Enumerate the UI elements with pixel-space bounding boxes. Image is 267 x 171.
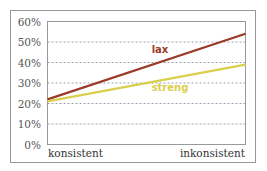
y-tick-label: 0% [24,139,41,151]
y-tick-label: 40% [18,57,41,69]
series-label-lax: lax [152,44,169,55]
y-tick-label: 60% [18,16,41,28]
series-label-streng: streng [152,82,189,93]
y-tick-label: 50% [18,36,41,48]
line-chart: 0%10%20%30%40%50%60% konsistent inkonsis… [0,0,267,171]
x-category-start: konsistent [48,147,104,159]
y-tick-label: 10% [18,118,41,130]
x-category-end: inkonsistent [180,147,246,159]
y-tick-label: 20% [18,98,41,110]
y-tick-label: 30% [18,77,41,89]
